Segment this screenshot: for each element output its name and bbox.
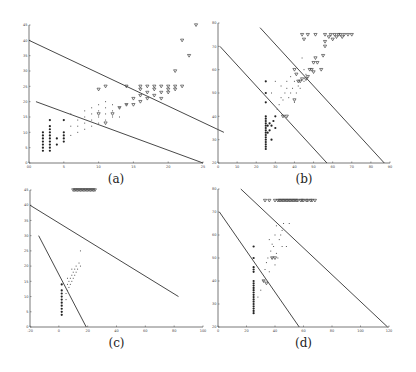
point-marker xyxy=(66,293,67,294)
point-marker xyxy=(265,269,266,270)
triangle-marker xyxy=(139,100,142,103)
dot-marker xyxy=(253,289,255,291)
point-marker xyxy=(105,120,106,121)
triangle-marker xyxy=(97,113,100,116)
point-marker xyxy=(105,107,106,108)
point-marker xyxy=(70,126,71,127)
x-tick-label: 5 xyxy=(63,165,65,169)
x-tick-label: 0 xyxy=(217,329,219,333)
upper-boundary-line xyxy=(29,40,224,132)
x-tick-label: 25 xyxy=(201,165,205,169)
y-tick-label: 45 xyxy=(24,188,28,192)
class-2-series xyxy=(257,223,289,298)
dot-marker xyxy=(272,120,274,122)
dot-marker xyxy=(265,118,267,120)
y-tick-label: 40 xyxy=(212,279,216,283)
x-tick-label: 20 xyxy=(244,329,248,333)
triangle-marker xyxy=(187,54,190,57)
triangle-marker xyxy=(174,70,177,73)
point-marker xyxy=(77,120,78,121)
y-tick-label: 30 xyxy=(212,302,216,306)
point-marker xyxy=(292,88,293,89)
x-tick-label: 15 xyxy=(131,165,135,169)
point-marker xyxy=(91,107,92,108)
point-marker xyxy=(294,81,295,82)
point-marker xyxy=(70,135,71,136)
point-marker xyxy=(281,97,282,98)
dot-marker xyxy=(265,122,267,124)
dot-marker xyxy=(253,305,255,307)
triangle-marker xyxy=(263,199,266,202)
point-marker xyxy=(71,269,72,270)
point-marker xyxy=(286,81,287,82)
y-tick-label: 15 xyxy=(23,115,27,119)
y-tick-label: 35 xyxy=(24,219,28,223)
point-marker xyxy=(275,81,276,82)
point-marker xyxy=(277,258,278,259)
point-marker xyxy=(66,299,67,300)
dot-marker xyxy=(61,289,63,291)
x-tick-label: 20 xyxy=(85,329,89,333)
point-marker xyxy=(279,239,280,240)
dot-marker xyxy=(49,131,51,133)
point-marker xyxy=(84,117,85,118)
point-marker xyxy=(269,239,270,240)
y-tick-label: 30 xyxy=(23,69,27,73)
point-marker xyxy=(304,81,305,82)
y-tick-label: 40 xyxy=(212,115,216,119)
triangle-marker xyxy=(153,88,156,91)
point-marker xyxy=(282,230,283,231)
triangle-marker xyxy=(331,38,334,41)
upper-boundary-line xyxy=(241,189,388,327)
triangle-marker xyxy=(313,199,316,202)
dot-marker xyxy=(265,132,267,134)
dot-marker xyxy=(265,148,267,150)
point-marker xyxy=(300,88,301,89)
x-tick-label: 40 xyxy=(273,329,277,333)
triangle-marker xyxy=(314,57,317,60)
point-marker xyxy=(279,104,280,105)
triangle-marker xyxy=(194,24,197,27)
point-marker xyxy=(269,271,270,272)
panel-b: 010203040506070809020304050607080(b) xyxy=(212,21,392,186)
panel-caption: (c) xyxy=(108,336,124,350)
point-marker xyxy=(284,93,285,94)
x-tick-label: 20 xyxy=(166,165,170,169)
triangle-marker xyxy=(181,39,184,42)
triangle-marker xyxy=(167,85,170,88)
point-marker xyxy=(290,76,291,77)
dot-marker xyxy=(61,299,63,301)
y-tick-label: 70 xyxy=(212,45,216,49)
triangle-marker xyxy=(97,88,100,91)
dot-marker xyxy=(49,128,51,130)
triangle-marker xyxy=(174,85,177,88)
dot-marker xyxy=(253,282,255,284)
triangle-marker xyxy=(341,36,344,39)
dot-marker xyxy=(61,311,63,313)
dot-marker xyxy=(253,271,255,273)
point-marker xyxy=(296,93,297,94)
lower-boundary-line xyxy=(220,46,327,163)
triangle-marker xyxy=(323,45,326,48)
dot-marker xyxy=(270,125,272,127)
point-marker xyxy=(286,88,287,89)
dot-marker xyxy=(42,134,44,136)
x-tick-label: 50 xyxy=(311,165,315,169)
dot-marker xyxy=(49,150,51,152)
panel-caption: (d) xyxy=(295,336,312,350)
point-marker xyxy=(119,117,120,118)
dot-marker xyxy=(63,140,65,142)
dot-marker xyxy=(265,143,267,145)
triangle-marker xyxy=(181,85,184,88)
point-marker xyxy=(105,113,106,114)
panel-a: 00510152025051015202530354045(a) xyxy=(23,23,224,186)
triangle-marker xyxy=(299,80,302,83)
dot-marker xyxy=(253,280,255,282)
x-tick-label: 10 xyxy=(235,165,239,169)
point-marker xyxy=(74,269,75,270)
point-marker xyxy=(91,126,92,127)
dot-marker xyxy=(253,287,255,289)
dot-marker xyxy=(265,127,267,129)
panel-c: -20020406080100051015202530354045(c) xyxy=(24,188,206,350)
point-marker xyxy=(282,100,283,101)
